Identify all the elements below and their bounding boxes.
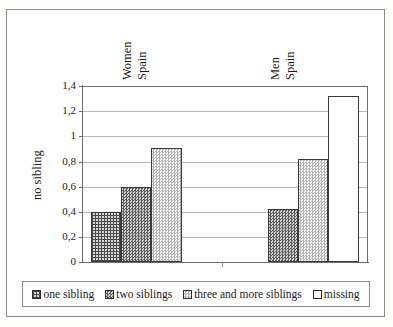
group-label-men-line1: Men (268, 57, 283, 80)
bar-women-spain-one-sibling (91, 212, 121, 262)
legend-label-two-siblings: two siblings (116, 288, 172, 300)
legend-item-three-and-more-siblings: three and more siblings (183, 288, 302, 300)
legend-swatch-missing-icon (313, 290, 322, 299)
bar-women-spain-two-siblings (121, 187, 151, 262)
y-tick-label-0-4: 0,4 (40, 206, 76, 217)
x-axis-line (82, 262, 369, 263)
chart-figure: Women Spain Men Spain no sibling 1,4 1,2… (0, 0, 393, 327)
y-tick-label-0-8: 0,8 (40, 156, 76, 167)
legend-swatch-three-and-more-siblings-icon (183, 290, 192, 299)
legend-swatch-two-siblings-icon (105, 290, 114, 299)
bar-women-spain-three-and-more-siblings (151, 148, 182, 262)
group-label-women-line2: Spain (135, 52, 150, 80)
y-tick-label-1-2: 1,2 (40, 105, 76, 116)
bars-layer (83, 86, 368, 262)
legend-item-two-siblings: two siblings (105, 288, 172, 300)
group-label-women-line1: Women (120, 41, 135, 80)
legend-item-missing: missing (313, 288, 360, 300)
legend-item-one-sibling: one sibling (32, 288, 94, 300)
y-tick-label-0-2: 0,2 (40, 231, 76, 242)
bar-men-spain-three-and-more-siblings (298, 159, 328, 262)
legend-swatch-one-sibling-icon (32, 290, 41, 299)
y-tick-label-1-0: 1 (40, 130, 76, 141)
legend-label-one-sibling: one sibling (43, 288, 94, 300)
group-label-men-line2: Spain (283, 52, 298, 80)
legend-label-missing: missing (324, 288, 360, 300)
legend-label-three-and-more-siblings: three and more siblings (194, 288, 302, 300)
y-tick-label-0-6: 0,6 (40, 181, 76, 192)
y-tick-mark-0 (79, 262, 83, 263)
y-tick-label-0: 0 (40, 256, 76, 267)
category-separator-tick (222, 262, 223, 267)
bar-men-spain-missing (328, 96, 359, 262)
bar-men-spain-two-siblings (268, 209, 298, 262)
y-tick-label-1-4: 1,4 (40, 80, 76, 91)
legend: one sibling two siblings three and more … (22, 281, 370, 307)
